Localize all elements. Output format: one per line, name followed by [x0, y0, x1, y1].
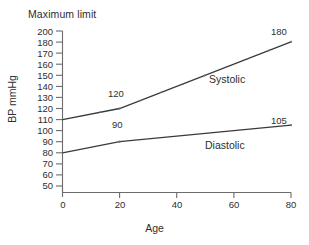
systolic-line [63, 42, 292, 120]
y-axis-ticks [56, 31, 63, 186]
plot-area [0, 0, 309, 245]
systolic-markers [81, 41, 293, 117]
diastolic-line [63, 125, 292, 153]
bp-vs-age-chart: Maximum limit BP mmHg Age 200 180 170 16… [0, 0, 309, 245]
